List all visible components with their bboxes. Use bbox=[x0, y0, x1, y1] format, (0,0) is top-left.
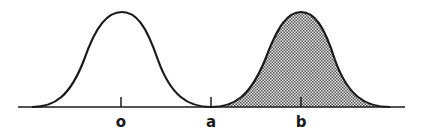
shaded-area-b bbox=[211, 12, 390, 107]
diagram-canvas: o a b bbox=[0, 0, 424, 133]
label-b: b bbox=[296, 113, 307, 131]
label-o: o bbox=[116, 113, 126, 131]
label-a: a bbox=[206, 113, 216, 131]
curve-o bbox=[32, 12, 211, 107]
